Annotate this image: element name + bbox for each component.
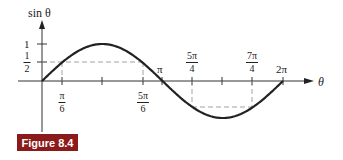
7pi4-denominator: 4 [250, 63, 255, 74]
x-axis-arrow-icon [304, 78, 314, 84]
x-tick-label-pi: π [157, 64, 163, 75]
pi6-denominator: 6 [60, 103, 65, 114]
y-half-numerator: 1 [24, 51, 31, 63]
x-tick-label-5pi4: 5π 4 [186, 51, 198, 74]
5pi6-denominator: 6 [141, 103, 146, 114]
x-tick-label-pi6: π 6 [58, 91, 65, 114]
x-tick-label-5pi6: 5π 6 [137, 91, 149, 114]
y-axis-label: sin θ [28, 7, 51, 19]
y-tick-label-1: 1 [24, 39, 30, 50]
7pi4-numerator: 7π [246, 51, 258, 63]
5pi4-denominator: 4 [190, 63, 195, 74]
y-half-denominator: 2 [25, 63, 30, 74]
y-axis-label-text: sin θ [28, 6, 51, 20]
pi6-numerator: π [58, 91, 65, 103]
x-axis-label: θ [318, 76, 324, 88]
x-tick-label-7pi4: 7π 4 [246, 51, 258, 74]
figure-label: Figure 8.4 [17, 134, 78, 151]
5pi4-numerator: 5π [186, 51, 198, 63]
y-tick-label-half: 1 2 [24, 51, 31, 74]
y-axis-arrow-icon [39, 20, 45, 29]
5pi6-numerator: 5π [137, 91, 149, 103]
x-tick-label-2pi: 2π [276, 64, 287, 75]
